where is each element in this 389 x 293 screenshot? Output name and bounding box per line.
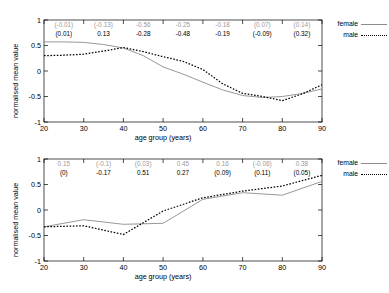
xtick-top-40: 40 bbox=[119, 124, 127, 133]
ytick-top-0: 0 bbox=[37, 67, 41, 76]
xaxis-title-top: age group (years) bbox=[135, 133, 192, 142]
xtick-top-70: 70 bbox=[239, 124, 247, 133]
xtick-bottom-90: 90 bbox=[318, 263, 326, 272]
legend-bottom: female male bbox=[327, 159, 387, 178]
yaxis-title-top: normalised mean value bbox=[11, 44, 20, 118]
xtick-top-90: 90 bbox=[318, 124, 326, 133]
legend-label-female-bottom: female bbox=[338, 159, 358, 167]
legend-key-female-line bbox=[361, 24, 387, 25]
legend-label-male-top: male bbox=[343, 31, 358, 39]
xtick-bottom-30: 30 bbox=[80, 263, 88, 272]
xtick-top-80: 80 bbox=[278, 124, 286, 133]
ytick-bottom-0: 0 bbox=[37, 206, 41, 215]
legend-label-female-top: female bbox=[338, 20, 358, 28]
xaxis-title-bottom: age group (years) bbox=[135, 272, 192, 281]
legend-key-male-line-bottom bbox=[361, 174, 387, 175]
ytick-bottom-1: 1 bbox=[37, 155, 41, 164]
chart-panel-bottom: 1 0.5 0 -0.5 -1 bbox=[0, 147, 389, 293]
legend-top: female male bbox=[327, 20, 387, 39]
xtick-top-30: 30 bbox=[80, 124, 88, 133]
ytick-bottom--0.5: -0.5 bbox=[29, 231, 41, 240]
ytick-top-1: 1 bbox=[37, 16, 41, 25]
xtick-bottom-70: 70 bbox=[239, 263, 247, 272]
legend-item-male-bottom[interactable]: male bbox=[327, 170, 387, 178]
xtick-bottom-50: 50 bbox=[159, 263, 167, 272]
yaxis-title-bottom: normalised mean value bbox=[11, 183, 20, 257]
chart-panel-top: 1 0.5 0 -0.5 -1 bbox=[0, 0, 389, 146]
legend-item-female-top[interactable]: female bbox=[327, 20, 387, 28]
xtick-bottom-20: 20 bbox=[40, 263, 48, 272]
series-female-top bbox=[44, 42, 322, 98]
series-male-bottom bbox=[44, 175, 322, 234]
legend-item-male-top[interactable]: male bbox=[327, 31, 387, 39]
ytick-bottom-0.5: 0.5 bbox=[31, 180, 41, 189]
ytick-top--0.5: -0.5 bbox=[29, 92, 41, 101]
legend-key-female-line-bottom bbox=[361, 163, 387, 164]
xtick-top-60: 60 bbox=[199, 124, 207, 133]
ytick-top-0.5: 0.5 bbox=[31, 41, 41, 50]
legend-key-male-line bbox=[361, 35, 387, 36]
legend-label-male-bottom: male bbox=[343, 170, 358, 178]
xtick-top-50: 50 bbox=[159, 124, 167, 133]
legend-item-female-bottom[interactable]: female bbox=[327, 159, 387, 167]
xtick-bottom-60: 60 bbox=[199, 263, 207, 272]
xtick-bottom-80: 80 bbox=[278, 263, 286, 272]
xtick-top-20: 20 bbox=[40, 124, 48, 133]
figure-root: 1 0.5 0 -0.5 -1 bbox=[0, 0, 389, 293]
xtick-bottom-40: 40 bbox=[119, 263, 127, 272]
